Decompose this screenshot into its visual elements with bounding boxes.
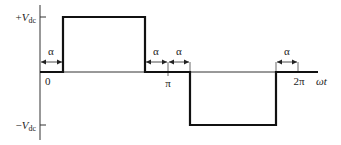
quasi-square-wave-diagram: α α α α +Vdc −Vdc 0 π 2π ωt: [0, 0, 341, 145]
alpha-label-2: α: [153, 45, 159, 57]
alpha-label-4: α: [284, 45, 290, 57]
waveform: [40, 17, 318, 125]
two-pi-label: 2π: [293, 75, 305, 87]
alpha-label-3: α: [176, 45, 182, 57]
alpha-label-1: α: [48, 45, 54, 57]
omega-t-label: ωt: [316, 75, 328, 87]
neg-vdc-label: −Vdc: [15, 119, 36, 133]
pi-label: π: [165, 77, 171, 89]
origin-label: 0: [45, 75, 51, 87]
pos-vdc-label: +Vdc: [15, 11, 36, 25]
